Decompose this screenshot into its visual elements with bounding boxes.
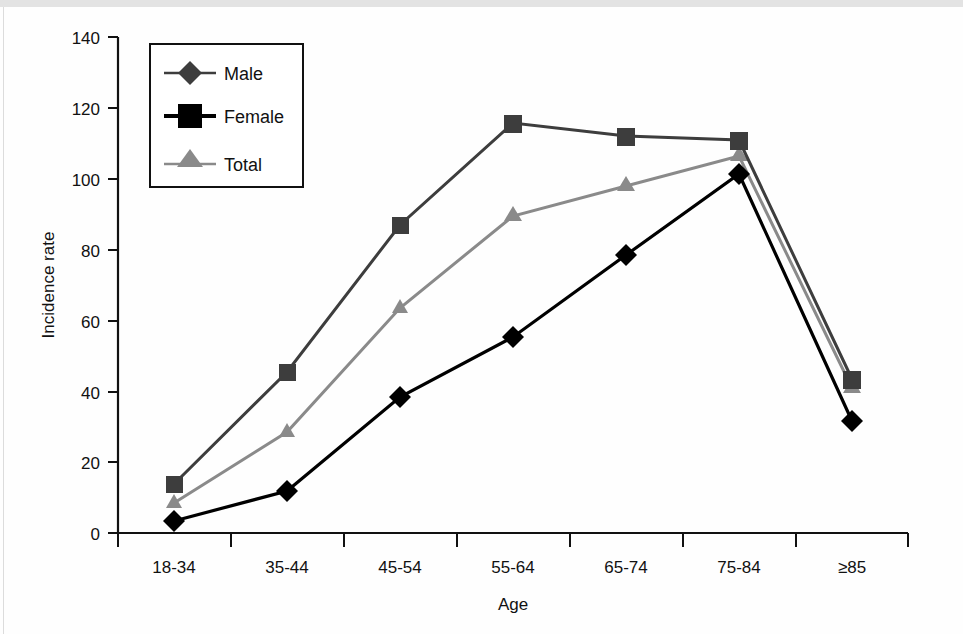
y-tick-label-100: 100 [72,171,100,190]
x-tick-label-65-74: 65-74 [604,558,647,577]
y-axis [108,37,118,533]
legend: Male Female Total [150,44,303,187]
data-point-female-45-54 [392,217,409,234]
x-axis [118,533,908,547]
data-point-total-45-54 [392,299,408,313]
x-tick-label-18-34: 18-34 [152,558,195,577]
y-tick-label-120: 120 [72,100,100,119]
y-tick-label-0: 0 [91,525,100,544]
legend-label-female: Female [224,107,284,127]
x-axis-title: Age [498,595,528,614]
x-tick-label-55-64: 55-64 [491,558,534,577]
data-point-male-55-64 [502,326,524,348]
y-tick-label-80: 80 [81,242,100,261]
data-point-female-75-84 [730,132,748,150]
y-axis-title: Incidence rate [39,232,58,339]
x-tick-label-75-84: 75-84 [717,558,760,577]
data-point-male-65-74 [615,244,637,266]
square-icon [178,104,202,128]
y-tick-label-20: 20 [81,454,100,473]
y-tick-label-40: 40 [81,384,100,403]
data-point-male-75-84 [728,163,750,185]
legend-label-total: Total [224,155,262,175]
chart-figure: 140 120 100 80 60 40 20 0 18-34 35-44 45… [0,0,963,634]
data-point-female-18-34 [166,476,183,493]
y-tick-label-60: 60 [81,313,100,332]
x-tick-label-45-54: 45-54 [378,558,421,577]
line-chart-canvas: 140 120 100 80 60 40 20 0 18-34 35-44 45… [0,0,963,634]
y-tick-label-140: 140 [72,29,100,48]
x-tick-label-35-44: 35-44 [265,558,308,577]
data-point-female-85-plus [843,371,861,389]
data-point-female-55-64 [504,115,522,133]
x-tick-label-85-plus: ≥85 [838,558,866,577]
data-point-female-65-74 [617,128,635,146]
legend-label-male: Male [224,64,263,84]
data-point-male-18-34 [163,510,185,532]
data-point-male-85-plus [841,410,863,432]
data-point-female-35-44 [279,364,296,381]
legend-entry-female: Female [164,104,284,128]
